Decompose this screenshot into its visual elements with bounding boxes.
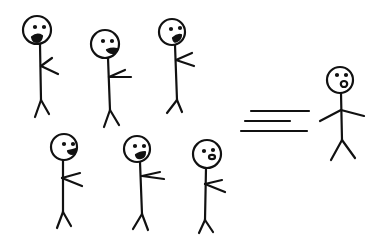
stick-figure-2 [91, 30, 131, 127]
running-stick-figure [320, 67, 364, 160]
stick-figure-4 [51, 134, 82, 228]
stick-figure-scene [0, 0, 383, 245]
stick-figure-6 [193, 140, 225, 233]
stick-figure-5 [124, 136, 164, 230]
stick-figure-1 [23, 16, 58, 117]
stick-figure-3 [159, 19, 194, 113]
speed-lines [241, 111, 309, 131]
